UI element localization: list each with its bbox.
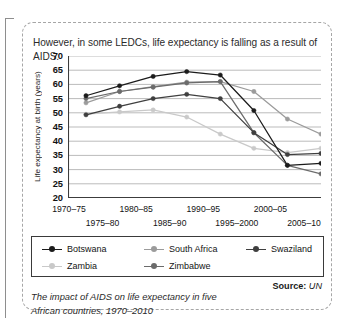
data-point — [218, 96, 222, 100]
data-point — [319, 146, 321, 150]
data-point — [185, 92, 189, 96]
legend-item: Botswana — [42, 242, 107, 256]
y-axis-tick-label: 40 — [53, 136, 63, 146]
y-axis-tick-label: 30 — [53, 165, 63, 175]
data-point — [252, 89, 256, 93]
legend-marker-icon — [42, 244, 62, 255]
data-point — [319, 151, 321, 155]
x-axis-tick-label: 2000–05 — [254, 204, 287, 214]
data-point — [285, 163, 289, 167]
data-point — [151, 108, 155, 112]
y-axis-tick-labels: 7065605550454035302520 — [43, 56, 65, 198]
legend-marker-icon — [144, 244, 164, 255]
source-label: Source: — [272, 281, 306, 291]
legend-item: Swaziland — [246, 242, 312, 256]
legend-label: South Africa — [169, 244, 218, 254]
plot-svg — [68, 56, 321, 198]
legend-marker-icon — [144, 261, 164, 272]
data-point — [117, 89, 121, 93]
legend-item: Zambia — [42, 259, 97, 273]
data-point — [84, 101, 88, 105]
y-axis-tick-label: 20 — [53, 193, 63, 203]
data-point — [117, 104, 121, 108]
legend-label: Zambia — [67, 261, 97, 271]
legend-label: Swaziland — [271, 244, 312, 254]
x-axis-tick-label: 1995–2000 — [215, 218, 258, 228]
series-line — [86, 82, 321, 174]
y-axis-tick-label: 45 — [53, 122, 63, 132]
data-point — [151, 96, 155, 100]
data-point — [117, 84, 121, 88]
legend-marker-icon — [246, 244, 266, 255]
x-axis-tick-label: 1970–75 — [52, 204, 85, 214]
y-axis-title: Life expectancy at birth (years) — [31, 56, 43, 198]
data-point — [151, 74, 155, 78]
page-edge-rule-top — [5, 18, 14, 19]
data-point — [84, 94, 88, 98]
data-point — [185, 81, 189, 85]
series-line — [86, 94, 321, 154]
data-point — [218, 73, 222, 77]
data-point — [252, 146, 256, 150]
data-point — [185, 115, 189, 119]
y-axis-tick-label: 50 — [53, 108, 63, 118]
data-point — [252, 108, 256, 112]
legend-label: Botswana — [67, 244, 107, 254]
y-axis-tick-label: 65 — [53, 65, 63, 75]
x-axis-tick-labels-row1: 1970–751980–851990–952000–05 — [51, 204, 329, 217]
y-axis-tick-label: 60 — [53, 79, 63, 89]
chart-legend: BotswanaSouth AfricaSwazilandZambiaZimba… — [31, 236, 324, 277]
data-point — [319, 172, 321, 176]
data-point — [185, 69, 189, 73]
data-point — [285, 117, 289, 121]
legend-marker-icon — [42, 261, 62, 272]
x-axis-tick-label: 1990–95 — [187, 204, 220, 214]
source-note: Source: UN — [272, 281, 322, 291]
y-axis-tick-label: 25 — [53, 179, 63, 189]
y-axis-tick-label: 70 — [53, 51, 63, 61]
data-point — [319, 161, 321, 165]
source-value: UN — [309, 281, 322, 291]
legend-item: South Africa — [144, 242, 218, 256]
x-axis-tick-label: 1980–85 — [119, 204, 152, 214]
y-axis-tick-label: 35 — [53, 150, 63, 160]
x-axis-tick-labels-row2: 1975–801985–901995–20002005–10 — [51, 218, 329, 231]
figure-caption: The impact of AIDS on life expectancy in… — [31, 290, 246, 316]
data-point — [218, 79, 222, 83]
data-point — [319, 132, 321, 136]
data-point — [151, 85, 155, 89]
data-point — [84, 113, 88, 117]
data-point — [285, 152, 289, 156]
plot-area — [68, 56, 321, 198]
y-axis-tick-label: 55 — [53, 94, 63, 104]
x-axis-tick-label: 1975–80 — [86, 218, 119, 228]
data-point — [117, 110, 121, 114]
data-point — [218, 132, 222, 136]
series-zambia — [84, 108, 321, 155]
x-axis-tick-label: 2005–10 — [287, 218, 320, 228]
legend-label: Zimbabwe — [169, 261, 211, 271]
legend-item: Zimbabwe — [144, 259, 211, 273]
series-line — [86, 110, 321, 153]
line-chart: Life expectancy at birth (years) 7065605… — [33, 56, 325, 234]
data-point — [252, 131, 256, 135]
x-axis-tick-label: 1985–90 — [153, 218, 186, 228]
page-edge-rule — [5, 18, 6, 318]
